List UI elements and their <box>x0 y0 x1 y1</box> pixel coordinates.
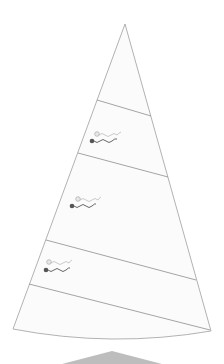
boom-shape <box>62 351 162 364</box>
sail-body <box>13 24 211 339</box>
sail <box>13 24 211 339</box>
sail-diagram <box>0 0 224 364</box>
